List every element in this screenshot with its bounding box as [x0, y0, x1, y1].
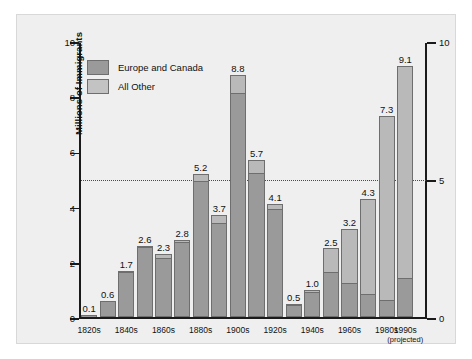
y-tick-label-left-10: 10 — [64, 38, 75, 48]
bar-segment-europe-canada — [249, 173, 263, 317]
bar-1880s — [193, 174, 209, 318]
bar-segment-europe-canada — [119, 272, 133, 316]
x-axis-label-1920s: 1920s — [258, 326, 292, 335]
bar-1890s — [211, 215, 227, 317]
bar-1830s — [100, 301, 116, 318]
bar-1930s — [286, 304, 302, 318]
bar-1870s — [174, 240, 190, 317]
legend-swatch-icon — [87, 79, 109, 94]
bar-segment-europe-canada — [212, 223, 226, 317]
bar-1850s — [137, 246, 153, 318]
bar-value-label-1830s: 0.6 — [96, 290, 120, 300]
x-axis-label-1820s: 1820s — [72, 326, 106, 335]
bar-value-label-1900s: 8.8 — [226, 64, 250, 74]
bar-value-label-1980s: 7.3 — [375, 105, 399, 115]
bar-value-label-1840s: 1.7 — [114, 260, 138, 270]
bar-value-label-1860s: 2.3 — [151, 243, 175, 253]
legend-item-europe-canada: Europe and Canada — [87, 59, 203, 76]
bar-1940s — [304, 290, 320, 318]
y-tick-label-left-6: 6 — [70, 148, 75, 158]
x-axis-annotation-projected: (projected) — [381, 336, 429, 344]
bar-segment-europe-canada — [398, 278, 412, 317]
x-axis-label-1940s: 1940s — [295, 326, 329, 335]
bar-value-label-1970s: 4.3 — [356, 188, 380, 198]
bar-value-label-1890s: 3.7 — [207, 204, 231, 214]
bar-value-label-1910s: 5.7 — [244, 149, 268, 159]
legend-label: All Other — [118, 81, 155, 92]
y-tick-label-right-5: 5 — [439, 176, 444, 186]
bar-value-label-1870s: 2.8 — [170, 229, 194, 239]
y-tick-label-left-2: 2 — [70, 259, 75, 269]
y-tick-label-left-4: 4 — [70, 204, 75, 214]
bar-1960s — [341, 229, 357, 317]
x-axis-label-1860s: 1860s — [146, 326, 180, 335]
bar-value-label-1920s: 4.1 — [263, 193, 287, 203]
x-axis-label-1990s: 1990s — [388, 326, 422, 335]
bar-segment-europe-canada — [194, 181, 208, 316]
bar-value-label-1950s: 2.5 — [319, 238, 343, 248]
bar-segment-europe-canada — [231, 93, 245, 317]
chart-figure: Millions of Immigrants 0246810 0510 0.10… — [16, 14, 456, 344]
bar-1950s — [323, 248, 339, 317]
bar-segment-europe-canada — [287, 305, 301, 316]
y-tick-right-10 — [427, 42, 436, 44]
legend-item-all-other: All Other — [87, 78, 203, 95]
bar-segment-europe-canada — [324, 272, 338, 316]
bar-segment-europe-canada — [82, 316, 96, 317]
bar-segment-europe-canada — [138, 247, 152, 316]
bar-1910s — [248, 160, 264, 317]
bar-segment-europe-canada — [268, 209, 282, 317]
y-tick-label-right-0: 0 — [439, 314, 444, 324]
bar-segment-europe-canada — [361, 294, 375, 316]
bar-1980s — [379, 116, 395, 317]
y-tick-label-left-8: 8 — [70, 93, 75, 103]
bar-1900s — [230, 75, 246, 318]
x-axis-label-1880s: 1880s — [184, 326, 218, 335]
x-axis-label-1840s: 1840s — [109, 326, 143, 335]
bar-segment-europe-canada — [101, 302, 115, 317]
legend-label: Europe and Canada — [118, 62, 203, 73]
bar-segment-europe-canada — [380, 300, 394, 317]
bar-segment-europe-canada — [342, 283, 356, 316]
y-tick-label-left-0: 0 — [70, 314, 75, 324]
legend-swatch-icon — [87, 60, 109, 75]
bar-1860s — [155, 254, 171, 317]
x-axis-label-1900s: 1900s — [221, 326, 255, 335]
bar-segment-europe-canada — [156, 258, 170, 316]
bar-1840s — [118, 271, 134, 318]
y-tick-right-0 — [427, 318, 436, 320]
bar-value-label-1880s: 5.2 — [189, 163, 213, 173]
bar-value-label-1940s: 1.0 — [300, 279, 324, 289]
y-tick-label-right-10: 10 — [439, 38, 450, 48]
bar-value-label-1930s: 0.5 — [282, 293, 306, 303]
bar-1970s — [360, 199, 376, 318]
bar-value-label-1820s: 0.1 — [77, 304, 101, 314]
bar-segment-europe-canada — [175, 242, 189, 317]
x-axis-line — [79, 317, 427, 319]
bar-segment-europe-canada — [305, 292, 319, 317]
bar-1820s — [81, 315, 97, 318]
bar-value-label-1960s: 3.2 — [337, 218, 361, 228]
chart-legend: Europe and CanadaAll Other — [87, 59, 203, 97]
y-tick-right-5 — [427, 180, 436, 182]
bar-value-label-1990s: 9.1 — [393, 55, 417, 65]
x-axis-label-1960s: 1960s — [332, 326, 366, 335]
bar-1990s — [397, 66, 413, 317]
